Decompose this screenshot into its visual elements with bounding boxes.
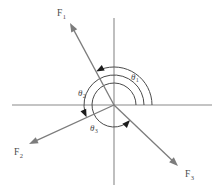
angle-labels-group: θ1 θ2 θ3: [78, 72, 139, 134]
theta2-arrowhead: [81, 109, 87, 118]
angle-label-theta2: θ2: [78, 88, 86, 99]
force-label-f2-subscript: 2: [20, 152, 23, 159]
angle-label-theta1: θ1: [131, 72, 139, 83]
force-diagram-figure: F1 F2 F3 θ1 θ2 θ3: [0, 0, 223, 193]
force-vector-f1-arrowhead: [70, 23, 77, 33]
force-label-f2-letter: F: [14, 147, 19, 157]
angle-label-theta2-subscript: 2: [83, 92, 86, 99]
theta3-arrowhead: [122, 120, 130, 128]
theta1-arrowhead: [96, 65, 105, 71]
force-label-f1-letter: F: [57, 8, 62, 18]
angle-label-theta1-subscript: 1: [136, 76, 139, 83]
force-label-f3-subscript: 3: [191, 174, 194, 181]
force-label-f3-letter: F: [185, 169, 190, 179]
force-vector-f3-shaft: [114, 105, 174, 163]
angle-label-theta3-subscript: 3: [95, 127, 98, 134]
force-vector-f2-arrowhead: [29, 137, 39, 144]
diagram-canvas: F1 F2 F3 θ1 θ2 θ3: [0, 0, 223, 193]
force-label-f3: F3: [185, 169, 194, 181]
force-label-f2: F2: [14, 147, 23, 159]
force-label-f1-subscript: 1: [63, 13, 66, 20]
angle-label-theta3: θ3: [90, 123, 98, 134]
force-vectors-group: [29, 23, 178, 166]
angle-arcs-group: [81, 65, 152, 128]
theta1-arc: [101, 67, 152, 105]
force-label-f1: F1: [57, 8, 66, 20]
